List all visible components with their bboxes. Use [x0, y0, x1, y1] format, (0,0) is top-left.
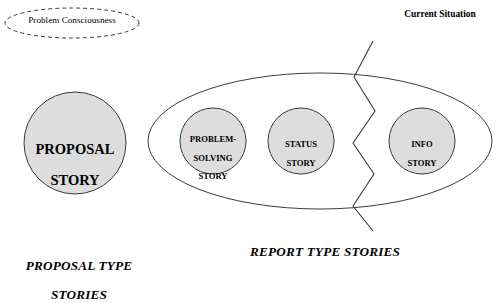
zigzag-divider-icon — [353, 41, 375, 231]
problem-solving-story-label-line1: PROBLEM- — [173, 135, 253, 144]
info-story-label-line1: INFO — [382, 140, 462, 149]
proposal-story-label: PROPOSAL STORY — [15, 126, 135, 204]
info-story-label: INFO STORY — [382, 131, 462, 177]
current-situation-label: Current Situation — [380, 9, 500, 19]
status-story-label-line2: STORY — [261, 159, 341, 168]
problem-consciousness-label: Problem Consciousness — [2, 16, 142, 26]
problem-solving-story-label: PROBLEM- SOLVING STORY — [173, 126, 253, 191]
proposal-type-stories-caption-line2: STORIES — [4, 288, 154, 302]
proposal-story-label-line1: PROPOSAL — [15, 142, 135, 158]
status-story-label: STATUS STORY — [261, 131, 341, 177]
info-story-label-line2: STORY — [382, 159, 462, 168]
proposal-type-stories-caption: PROPOSAL TYPE STORIES — [4, 245, 154, 303]
status-story-label-line1: STATUS — [261, 140, 341, 149]
proposal-story-label-line2: STORY — [15, 173, 135, 189]
proposal-type-stories-caption-line1: PROPOSAL TYPE — [4, 259, 154, 273]
problem-solving-story-label-line2: SOLVING — [173, 154, 253, 163]
report-type-stories-caption: REPORT TYPE STORIES — [235, 245, 415, 259]
problem-solving-story-label-line3: STORY — [173, 172, 253, 181]
